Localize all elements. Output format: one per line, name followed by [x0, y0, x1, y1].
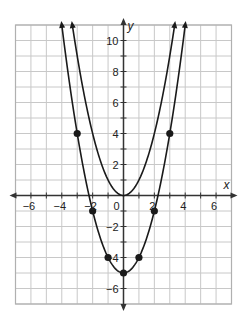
y-tick-label: −6	[106, 283, 119, 295]
y-tick-label: 4	[112, 128, 118, 140]
x-tick-label: 2	[149, 200, 155, 212]
y-axis-label: y	[127, 19, 135, 33]
y-tick-label: 6	[112, 97, 118, 109]
data-point	[135, 254, 142, 261]
y-tick-label: 10	[106, 35, 118, 47]
data-point	[166, 130, 173, 137]
x-tick-label: 6	[211, 200, 217, 212]
x-tick-label: 0	[113, 200, 119, 212]
x-axis-arrow-right-icon	[231, 193, 238, 199]
x-tick-label: 4	[180, 200, 186, 212]
y-axis-arrow-up-icon	[121, 18, 127, 25]
y-tick-label: 2	[112, 159, 118, 171]
data-point	[120, 269, 127, 276]
y-axis-arrow-down-icon	[121, 304, 127, 311]
data-point	[74, 130, 81, 137]
parabola-chart: −6−4−20246−6−4−2246810xy	[0, 0, 246, 329]
tick-labels: −6−4−20246−6−4−2246810xy	[23, 19, 231, 295]
x-axis-label: x	[223, 178, 231, 192]
x-axis-arrow-left-icon	[10, 193, 17, 199]
x-tick-label: −6	[23, 200, 36, 212]
y-tick-label: −2	[106, 221, 119, 233]
y-tick-label: −4	[106, 252, 119, 264]
x-tick-label: −4	[54, 200, 67, 212]
x-tick-label: −2	[84, 200, 97, 212]
y-tick-label: 8	[112, 66, 118, 78]
